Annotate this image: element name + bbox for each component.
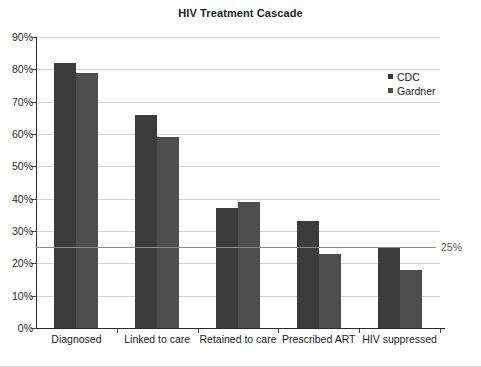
y-axis-line [36,37,37,329]
bar-gardner-1[interactable] [157,137,179,328]
bar-cdc-3[interactable] [297,221,319,328]
bar-cdc-1[interactable] [135,115,157,328]
legend-item-gardner[interactable]: Gardner [388,84,478,97]
x-axis-category-label: Diagnosed [36,333,117,346]
bar-cdc-2[interactable] [216,208,238,328]
x-axis-category-label: HIV suppressed [359,333,440,346]
chart-legend: CDC Gardner [388,70,478,98]
legend-swatch-icon [388,74,393,79]
y-axis-tick-label: 20% [3,257,33,269]
x-axis-line [36,328,445,329]
y-axis: 0%10%20%30%40%50%60%70%80%90% [0,0,33,367]
y-axis-tick-label: 80% [3,63,33,75]
y-axis-tick-label: 0% [3,322,33,334]
x-axis-category-label: Retained to care [198,333,279,346]
y-axis-tick-label: 50% [3,160,33,172]
bar-cdc-4[interactable] [378,247,400,328]
y-axis-tick-label: 60% [3,128,33,140]
legend-item-cdc[interactable]: CDC [388,70,478,83]
bar-gardner-4[interactable] [400,270,422,328]
reference-line-25 [36,247,436,248]
bar-gardner-0[interactable] [76,73,98,328]
gridline [36,37,440,38]
y-axis-tick-label: 40% [3,193,33,205]
legend-item-label: CDC [397,71,420,83]
y-axis-tick-label: 10% [3,290,33,302]
plot-area [36,37,440,328]
chart-container: HIV Treatment Cascade 0%10%20%30%40%50%6… [0,0,481,367]
gridline [36,69,440,70]
y-axis-tick-label: 90% [3,31,33,43]
bar-gardner-3[interactable] [319,254,341,328]
reference-line-label: 25% [441,241,462,253]
chart-title: HIV Treatment Cascade [0,7,481,19]
x-axis-tick-mark [440,329,441,333]
legend-swatch-icon [388,88,393,93]
x-axis-category-label: Prescribed ART [278,333,359,346]
x-axis-category-label: Linked to care [117,333,198,346]
bar-gardner-2[interactable] [238,202,260,328]
legend-item-label: Gardner [397,85,436,97]
bar-cdc-0[interactable] [54,63,76,328]
y-axis-tick-label: 30% [3,225,33,237]
y-axis-tick-label: 70% [3,96,33,108]
